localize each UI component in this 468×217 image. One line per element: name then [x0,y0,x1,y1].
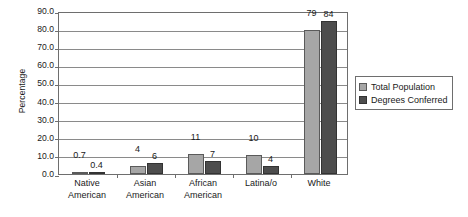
legend-swatch-icon [359,83,367,91]
x-axis-tick-mark [291,174,292,178]
y-axis-tick-label: 0.0 [18,170,54,179]
plot-area: 0.70.4461171047984 [58,12,348,175]
y-axis-tick-label: 80.0 [18,25,54,34]
x-axis-category-label: NativeAmerican [58,178,116,201]
y-axis-tick-label: 50.0 [18,79,54,88]
y-axis-tick-label: 20.0 [18,134,54,143]
legend-entry: Total Population [359,80,448,93]
x-axis-category-label-line: American [58,190,116,202]
bar [72,172,88,174]
x-axis-category-label: Latina/o [232,178,290,190]
x-axis-category-label: White [290,178,348,190]
bar [205,161,221,174]
y-axis-tick-label: 70.0 [18,43,54,52]
x-axis-category-label-line: Asian [116,178,174,190]
x-axis-category-label-line: African [174,178,232,190]
bar-group: 117 [175,13,233,174]
x-axis-category-label-line: American [174,190,232,202]
bar [89,172,105,174]
bar-group: 0.70.4 [59,13,117,174]
legend-label: Degrees Conferred [371,95,448,105]
x-axis-tick-mark [117,174,118,178]
bar-value-label: 0.7 [66,150,94,160]
y-axis-tick-label: 30.0 [18,116,54,125]
bar-value-label: 7 [199,149,227,159]
x-axis-category-label-line: Native [58,178,116,190]
bar-group: 46 [117,13,175,174]
y-axis-tick-label: 40.0 [18,98,54,107]
bar [263,166,279,173]
x-axis-category-label-line: Latina/o [232,178,290,190]
bar [321,21,337,173]
x-axis-tick-labels: NativeAmericanAsianAmericanAfricanAmeric… [58,178,348,214]
bar-chart-figure: Percentage 0.010.020.030.040.050.060.070… [0,0,468,217]
y-axis-tick-label: 10.0 [18,152,54,161]
x-axis-category-label: AfricanAmerican [174,178,232,201]
legend-entry: Degrees Conferred [359,93,448,106]
bar [130,166,146,173]
bar-value-label: 11 [182,132,210,142]
bar-value-label: 84 [315,9,343,19]
bar [147,163,163,174]
x-axis-category-label: AsianAmerican [116,178,174,201]
bar-group: 7984 [291,13,349,174]
chart-legend: Total PopulationDegrees Conferred [355,76,453,110]
x-axis-tick-mark [233,174,234,178]
bar-value-label: 10 [240,133,268,143]
bar [304,30,320,173]
y-axis-tick-label: 60.0 [18,61,54,70]
bar-value-label: 4 [257,154,285,164]
y-axis-tick-labels: 0.010.020.030.040.050.060.070.080.090.0 [18,6,54,176]
x-axis-tick-mark [175,174,176,178]
legend-swatch-icon [359,96,367,104]
y-axis-tick-mark [55,176,59,177]
y-axis-tick-label: 90.0 [18,7,54,16]
bar-group: 104 [233,13,291,174]
bar-value-label: 6 [141,151,169,161]
bar-value-label: 0.4 [83,160,111,170]
x-axis-category-label-line: White [290,178,348,190]
x-axis-category-label-line: American [116,190,174,202]
legend-label: Total Population [371,82,435,92]
